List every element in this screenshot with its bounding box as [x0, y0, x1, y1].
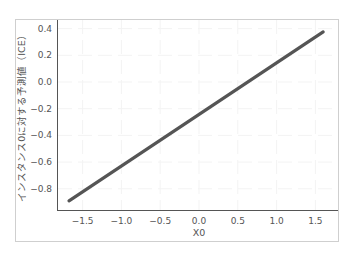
x-tick-label: 1.0: [269, 216, 284, 226]
x-tick-label: 0.5: [231, 216, 245, 226]
y-tick-label: 0.2: [38, 50, 52, 60]
y-axis-label: インスタンス0に対する予測値（ICE）: [16, 30, 27, 201]
y-tick-label: −0.8: [30, 184, 52, 194]
y-tick-label: 0.0: [38, 77, 53, 87]
y-tick-label: 0.4: [38, 24, 53, 34]
x-ticks: −1.5−1.0−0.50.00.51.01.5: [72, 216, 323, 226]
x-tick-label: 1.5: [308, 216, 322, 226]
x-tick-label: 0.0: [192, 216, 207, 226]
x-tick-label: −1.5: [72, 216, 94, 226]
x-tick-label: −1.0: [110, 216, 132, 226]
x-axis-label: X0: [193, 227, 206, 238]
ice-chart: 0.40.20.0−0.2−0.4−0.6−0.8 −1.5−1.0−0.50.…: [0, 0, 352, 258]
y-tick-label: −0.6: [30, 157, 52, 167]
ice-line: [69, 32, 323, 201]
y-ticks: 0.40.20.0−0.2−0.4−0.6−0.8: [30, 24, 52, 194]
y-tick-label: −0.4: [30, 130, 52, 140]
series: [69, 32, 323, 201]
x-tick-label: −0.5: [149, 216, 171, 226]
y-tick-label: −0.2: [30, 104, 52, 114]
